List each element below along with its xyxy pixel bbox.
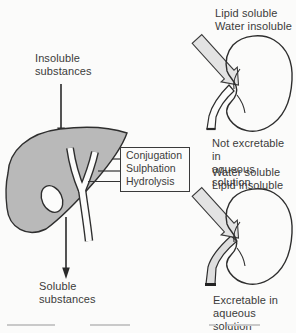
liver-shape: [6, 127, 127, 232]
process-item-sulphation: Sulphation: [126, 162, 189, 175]
caption-fragment-mark: [90, 324, 130, 326]
label-excretable: Excretable in aqueous solution: [213, 294, 296, 333]
kidney-top: [192, 35, 292, 132]
label-soluble-substances: Soluble substances: [39, 280, 96, 306]
caption-fragment-mark: [7, 324, 55, 326]
caption-fragment-mark: [209, 324, 216, 326]
process-box: Conjugation Sulphation Hydrolysis: [120, 147, 190, 192]
process-item-conjugation: Conjugation: [126, 149, 189, 162]
renal-pelvis-line-bottom-2: [237, 248, 245, 266]
arrowhead-down-icon: [62, 268, 70, 280]
label-lipid-soluble-water-insoluble: Lipid soluble Water insoluble: [215, 7, 292, 33]
process-item-hydrolysis: Hydrolysis: [126, 175, 189, 188]
caption-fragment-mark: [227, 324, 260, 326]
renal-pelvis-line-top-2: [237, 95, 245, 113]
ureter-top: [207, 85, 234, 129]
soluble-output-arrow: [62, 217, 70, 279]
label-insoluble-substances: Insoluble substances: [35, 52, 92, 78]
label-water-soluble-lipid-insoluble: Water soluble Lipid insoluble: [212, 166, 283, 192]
